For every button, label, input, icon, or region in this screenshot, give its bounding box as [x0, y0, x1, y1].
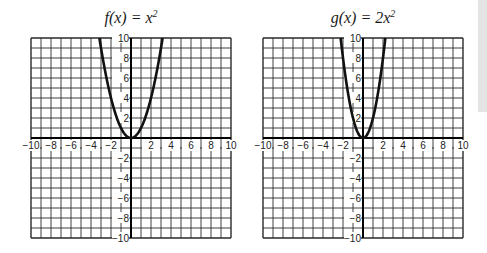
x-tick-label: 2	[380, 140, 386, 151]
y-tick-label: 2	[355, 113, 361, 124]
y-tick-label: −4	[350, 173, 362, 184]
x-tick-label: 6	[420, 140, 426, 151]
y-tick-label: −8	[350, 213, 362, 224]
y-tick-label: 4	[355, 93, 361, 104]
x-tick-label: −8	[277, 140, 289, 151]
y-tick-label: −6	[350, 193, 362, 204]
page-edge-strip	[478, 0, 487, 112]
y-tick-label: −2	[350, 153, 362, 164]
x-tick-label: 10	[457, 140, 469, 151]
x-tick-label: 8	[440, 140, 446, 151]
x-tick-label: −6	[297, 140, 309, 151]
y-tick-label: −10	[344, 233, 361, 244]
y-tick-label: 8	[355, 53, 361, 64]
y-tick-label: 10	[350, 33, 362, 44]
plot-area-g: −10−8−6−4−2246810108642−2−4−6−8−10	[0, 0, 487, 253]
x-tick-label: −4	[317, 140, 329, 151]
x-tick-label: −2	[337, 140, 349, 151]
y-tick-label: 6	[355, 73, 361, 84]
chart-g: g(x) = 2x2 −10−8−6−4−2246810108642−2−4−6…	[0, 0, 487, 253]
x-tick-label: −10	[255, 140, 272, 151]
x-tick-label: 4	[400, 140, 406, 151]
